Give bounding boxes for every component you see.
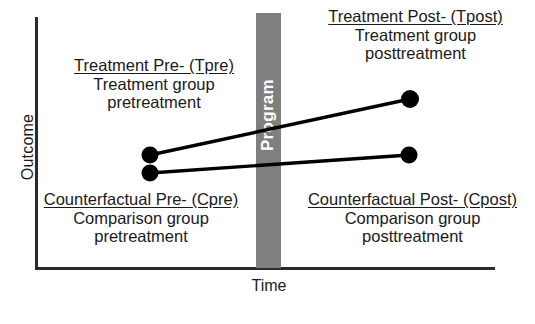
diagram-canvas: Outcome Time Program Treatment Pre- (Tpr…	[0, 0, 535, 324]
data-point-cpost	[401, 147, 418, 164]
annotation-treatment-post: Treatment Post- (Tpost) Treatment group …	[296, 7, 535, 63]
annotation-treatment-pre-heading: Treatment Pre- (Tpre)	[74, 56, 234, 75]
annotation-counterfactual-post: Counterfactual Post- (Cpost) Comparison …	[290, 190, 535, 246]
annotation-counterfactual-pre-line2: pretreatment	[22, 227, 260, 246]
annotation-counterfactual-post-line1: Comparison group	[290, 209, 535, 228]
annotation-treatment-post-line2: posttreatment	[296, 44, 535, 63]
annotation-counterfactual-pre-heading: Counterfactual Pre- (Cpre)	[44, 190, 238, 209]
counterfactual-trend-line	[150, 155, 409, 173]
data-point-cpre	[142, 165, 159, 182]
annotation-treatment-pre-line2: pretreatment	[48, 93, 260, 112]
annotation-treatment-post-line1: Treatment group	[296, 26, 535, 45]
data-point-tpre	[142, 147, 159, 164]
annotation-treatment-post-heading: Treatment Post- (Tpost)	[328, 7, 503, 26]
annotation-counterfactual-pre-line1: Comparison group	[22, 209, 260, 228]
data-point-tpost	[401, 90, 419, 108]
annotation-counterfactual-post-line2: posttreatment	[290, 227, 535, 246]
annotation-counterfactual-pre: Counterfactual Pre- (Cpre) Comparison gr…	[22, 190, 260, 246]
annotation-treatment-pre-line1: Treatment group	[48, 75, 260, 94]
annotation-counterfactual-post-heading: Counterfactual Post- (Cpost)	[308, 190, 517, 209]
annotation-treatment-pre: Treatment Pre- (Tpre) Treatment group pr…	[48, 56, 260, 112]
